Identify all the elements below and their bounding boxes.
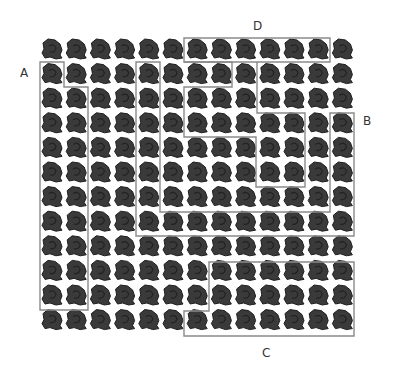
rock-tile [211,162,231,182]
rock-tile [236,162,256,182]
rock-tile [163,236,183,256]
rock-tile [90,113,110,133]
rock-tile [284,310,304,330]
rock-tile [115,211,135,231]
rock-tile [308,285,328,305]
rock-tile [66,64,86,84]
rock-tile [90,310,110,330]
rock-tile [332,260,352,280]
rock-tile [66,310,86,330]
region-diagram: A B C D [0,0,394,377]
rock-tile [236,187,256,207]
rock-tile [236,310,256,330]
rock-tile [308,211,328,231]
rock-tile [260,187,280,207]
rock-tile [236,211,256,231]
rock-tile [66,88,86,108]
rock-tile [236,137,256,157]
rock-tile [163,39,183,59]
rock-tile [187,162,207,182]
rock-tile [284,64,304,84]
rock-tile [332,285,352,305]
rock-tile [163,285,183,305]
rock-tile [115,187,135,207]
rock-tile [187,211,207,231]
rock-tile [332,236,352,256]
rock-tile [66,236,86,256]
rock-tile [260,236,280,256]
rock-tile [163,260,183,280]
rock-tile [260,113,280,133]
rock-tile [90,236,110,256]
rock-tile [308,113,328,133]
rock-tile [90,39,110,59]
rock-tile [187,113,207,133]
rock-tile [66,113,86,133]
rock-tile [139,162,159,182]
rock-tile [90,64,110,84]
rock-tile [284,137,304,157]
rock-tile [90,260,110,280]
rock-tile [332,39,352,59]
rock-tile [42,285,62,305]
rock-tile [332,137,352,157]
rock-tile [90,137,110,157]
rock-tile [211,187,231,207]
rock-tile [66,211,86,231]
rock-tile [187,88,207,108]
rock-tile [66,162,86,182]
label-c: C [262,346,270,360]
rock-tile [90,285,110,305]
rock-tile [332,310,352,330]
rock-tile [236,260,256,280]
rock-tile [211,113,231,133]
rock-tile [90,162,110,182]
rock-tile [308,64,328,84]
rock-tile [42,137,62,157]
rock-tile [187,310,207,330]
rock-tile [284,113,304,133]
rock-tile [211,260,231,280]
label-d: D [253,19,262,33]
rock-tile [308,260,328,280]
rock-tile [308,88,328,108]
rock-tile [211,88,231,108]
rock-tile [163,88,183,108]
rock-tile [139,310,159,330]
rock-tile [139,137,159,157]
rock-tile [115,64,135,84]
rock-tile [284,236,304,256]
rock-tile [115,260,135,280]
rock-tile [42,236,62,256]
rock-tile [187,260,207,280]
rock-tile [66,285,86,305]
rock-tile [115,88,135,108]
rock-tile [139,187,159,207]
rock-tile [236,88,256,108]
rock-tile [90,88,110,108]
rock-tile [284,285,304,305]
rock-tile [66,39,86,59]
rock-tile [236,285,256,305]
rock-tile [187,187,207,207]
rock-tile [211,310,231,330]
rock-tile [332,88,352,108]
rock-tile [284,187,304,207]
rock-tile [260,137,280,157]
rock-tile [139,64,159,84]
rock-tile [163,113,183,133]
rock-tile [260,285,280,305]
rock-tile [42,310,62,330]
rock-tile [187,137,207,157]
rock-tile [163,187,183,207]
rock-tile [308,137,328,157]
rock-tile [115,162,135,182]
rock-tile [163,310,183,330]
rock-tile [332,187,352,207]
label-b: B [363,114,371,128]
rock-tile [66,137,86,157]
rock-tile [187,236,207,256]
rock-tile [260,211,280,231]
rock-tile [42,187,62,207]
rock-tile [115,137,135,157]
